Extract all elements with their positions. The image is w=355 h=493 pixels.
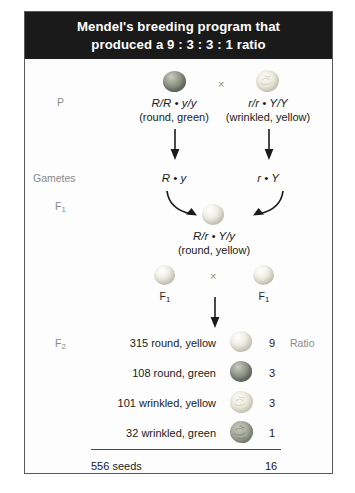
gamete-right: r • Y xyxy=(257,172,279,184)
f2-summary-divider xyxy=(91,449,281,450)
f1-parent-left-label-subscript: 1 xyxy=(166,295,170,304)
arrow-down-to-f2-icon xyxy=(208,297,222,329)
wrinkle-texture-icon xyxy=(230,421,253,444)
curved-arrows-fertilization-icon xyxy=(135,189,315,221)
stage-label-p: P xyxy=(57,96,64,108)
stage-label-f2-subscript: 2 xyxy=(61,342,65,351)
f1-round-yellow-seed xyxy=(202,204,224,225)
f2-row-2-seed xyxy=(230,361,252,382)
arrow-down-left-gametes-icon xyxy=(168,129,182,161)
f1-genotype: R/r • Y/y xyxy=(193,230,235,242)
figure-panel: Mendel's breeding program that produced … xyxy=(24,11,333,474)
f2-row-4-seed xyxy=(230,421,253,443)
figure-title-line-1: Mendel's breeding program that xyxy=(77,19,280,34)
parental-cross-symbol: × xyxy=(218,78,224,90)
wrinkled-yellow-seed xyxy=(256,70,279,92)
f1-parent-left-seed xyxy=(154,265,175,285)
stage-label-f1: F1 xyxy=(55,200,66,212)
f1-parent-right-label: F1 xyxy=(259,290,270,302)
parental-right-genotype: r/r • Y/Y xyxy=(248,97,288,109)
arrow-down-right-gametes-icon xyxy=(262,129,276,161)
wrinkle-texture-icon xyxy=(256,70,279,93)
f2-row-1-ratio: 9 xyxy=(263,337,281,349)
f1-phenotype: (round, yellow) xyxy=(178,244,250,256)
figure-title-bar: Mendel's breeding program that produced … xyxy=(25,12,332,59)
f1-parent-right-label-subscript: 1 xyxy=(265,295,269,304)
f2-row-3-description: 101 wrinkled, yellow xyxy=(91,397,216,409)
figure-title: Mendel's breeding program that produced … xyxy=(63,18,294,53)
f2-total-seeds: 556 seeds xyxy=(91,460,142,472)
stage-label-f2: F2 xyxy=(55,337,66,349)
parental-right-phenotype: (wrinkled, yellow) xyxy=(226,111,310,123)
f1-cross-symbol: × xyxy=(210,270,216,282)
f2-row-3-ratio: 3 xyxy=(263,397,281,409)
f2-row-2-description: 108 round, green xyxy=(91,367,216,379)
stage-label-f1-subscript: 1 xyxy=(61,205,65,214)
stage-label-gametes: Gametes xyxy=(33,172,76,184)
f2-total-ratio: 16 xyxy=(259,460,283,472)
wrinkle-texture-icon xyxy=(230,391,253,414)
ratio-column-header: Ratio xyxy=(290,337,315,349)
parental-left-genotype: R/R • y/y xyxy=(152,97,197,109)
figure-title-line-2: produced a 9 : 3 : 3 : 1 ratio xyxy=(91,37,265,52)
f2-row-4-ratio: 1 xyxy=(263,427,281,439)
f1-parent-left-label: F1 xyxy=(160,290,171,302)
f2-row-2-ratio: 3 xyxy=(263,367,281,379)
f1-parent-right-seed xyxy=(253,265,274,285)
f2-row-1-seed xyxy=(230,331,252,352)
round-green-seed xyxy=(163,71,186,92)
parental-left-phenotype: (round, green) xyxy=(139,111,209,123)
gamete-left: R • y xyxy=(162,172,186,184)
f2-row-3-seed xyxy=(230,391,253,413)
f2-row-1-description: 315 round, yellow xyxy=(91,337,216,349)
f2-row-4-description: 32 wrinkled, green xyxy=(91,427,216,439)
